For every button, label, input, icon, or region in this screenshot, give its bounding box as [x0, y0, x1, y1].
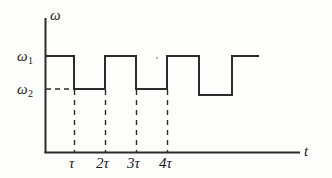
omega2-symbol: ω	[17, 81, 28, 97]
omega-waveform	[46, 56, 259, 95]
omega2-subscript: 2	[28, 88, 33, 99]
omega2-level-label: ω2	[17, 82, 33, 97]
figure-container: ω t ω1 ω2 τ 2τ 3τ 4τ	[0, 0, 332, 178]
omega1-symbol: ω	[17, 48, 28, 64]
x-tick-label-3tau: 3τ	[127, 156, 140, 171]
omega1-subscript: 1	[28, 55, 33, 66]
time-axis-label: t	[304, 144, 308, 159]
x-tick-label-4tau: 4τ	[159, 156, 172, 171]
omega-axis-label: ω	[50, 8, 61, 23]
x-tick-label-tau: τ	[69, 156, 74, 171]
x-tick-label-2tau: 2τ	[96, 156, 109, 171]
scan-artifact-speck	[156, 57, 158, 59]
omega1-level-label: ω1	[17, 49, 33, 64]
square-wave-plot	[0, 0, 332, 178]
